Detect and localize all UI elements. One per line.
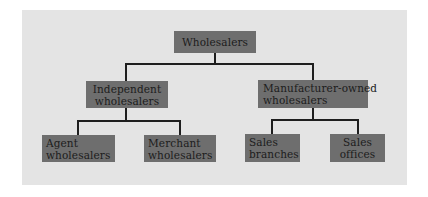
node-manufacturer-owned-wholesalers: Manufacturer-owned wholesalers [258, 80, 368, 108]
connector-independent-bar [77, 120, 181, 122]
node-sales-branches: Sales branches [245, 134, 300, 162]
connector-root-bar [125, 63, 314, 65]
connector-manufacturer-bar [271, 119, 359, 121]
node-merchant-wholesalers: Merchant wholesalers [144, 135, 216, 162]
node-independent-label-line1: Independent [90, 83, 164, 95]
node-agent-wholesalers: Agent wholesalers [42, 135, 115, 162]
node-sales-offices-label-line1: Sales [334, 136, 381, 148]
node-manufacturer-label-line1: Manufacturer-owned [263, 82, 364, 94]
node-independent-wholesalers: Independent wholesalers [86, 81, 168, 108]
connector-sales-offices-drop [357, 119, 359, 134]
node-wholesalers-label: Wholesalers [178, 36, 252, 48]
node-independent-label-line2: wholesalers [90, 95, 164, 107]
connector-merchant-drop [179, 120, 181, 135]
connector-independent-drop [125, 63, 127, 81]
node-agent-label-line1: Agent [46, 137, 111, 149]
connector-agent-drop [77, 120, 79, 135]
node-sales-branches-label-line1: Sales [249, 136, 296, 148]
node-sales-offices: Sales offices [330, 134, 385, 162]
node-wholesalers: Wholesalers [174, 31, 256, 53]
node-sales-offices-label-line2: offices [334, 148, 381, 160]
node-agent-label-line2: wholesalers [46, 149, 111, 161]
node-merchant-label-line2: wholesalers [148, 149, 212, 161]
connector-sales-branches-drop [271, 119, 273, 134]
node-merchant-label-line1: Merchant [148, 137, 212, 149]
connector-manufacturer-drop [312, 63, 314, 80]
node-manufacturer-label-line2: wholesalers [263, 94, 364, 106]
node-sales-branches-label-line2: branches [249, 148, 296, 160]
